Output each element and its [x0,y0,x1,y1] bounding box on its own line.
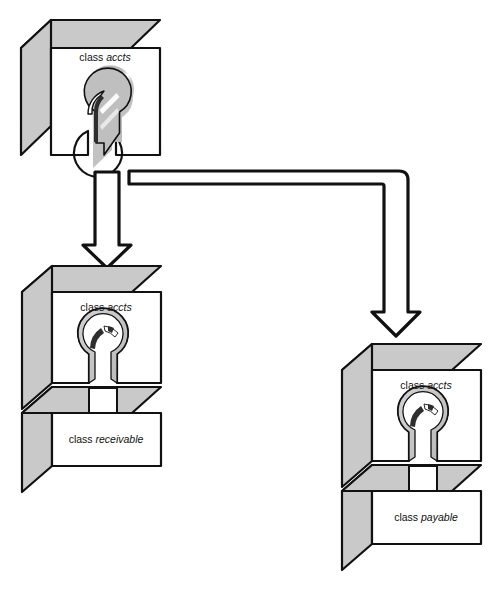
payable-assembly: class accts class payable [342,344,481,570]
payable-accts-label-name: accts [427,379,452,391]
receivable-accts-label-keyword: class [80,301,104,313]
receivable-assembly: class accts class receivable [22,266,161,492]
receivable-label-name: receivable [95,433,143,445]
base-block-label-keyword: class [79,51,103,63]
base-block-left-face [21,20,51,155]
receivable-accts-label-name: accts [107,301,132,313]
payable-label-name: payable [420,511,458,523]
base-block-label: class accts [79,51,131,63]
receivable-tab [89,388,117,413]
receivable-accts-left-face [22,266,52,409]
receivable-label-keyword: class [69,433,93,445]
payable-accts-left-face [342,344,372,487]
arrow-to-receivable [83,172,131,268]
payable-tab [409,466,437,491]
payable-label: class payable [394,511,458,523]
base-accts-block: class accts [21,20,160,177]
diagram-canvas: class accts [0,0,492,608]
receivable-accts-label: class accts [80,301,132,313]
receivable-keyhole-shadow-arc [90,328,104,349]
receivable-label: class receivable [69,433,144,445]
payable-label-keyword: class [394,511,418,523]
diagram-svg: class accts [0,0,492,608]
arrow-down-left-shape [83,172,131,268]
payable-accts-label: class accts [400,379,452,391]
payable-keyhole-shadow-arc [410,406,424,427]
base-block-label-name: accts [106,51,131,63]
arrow-to-payable [129,171,420,336]
arrow-down-left-inner-shade [97,176,101,247]
arrow-elbow-shape [129,171,420,336]
payable-accts-label-keyword: class [400,379,424,391]
